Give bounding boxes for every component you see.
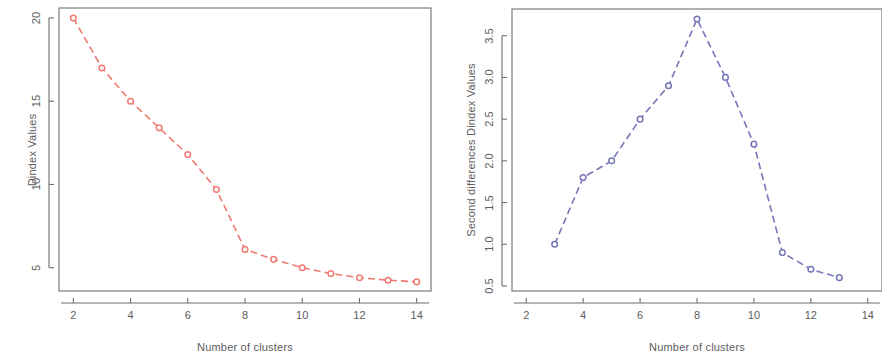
y-tick-label: 2.5 [481,110,497,128]
x-tick-label: 14 [411,309,423,321]
dindex-values-plot [0,0,441,360]
x-tick-label: 2 [70,309,76,321]
data-series-line [73,18,416,282]
data-point-marker [780,250,786,256]
data-point-marker [185,152,191,158]
data-point-marker [552,241,558,247]
data-point-marker [751,141,757,147]
data-point-marker [299,265,305,271]
data-point-marker [414,279,420,285]
x-tick-label: 10 [748,309,760,321]
x-tick-label: 4 [127,309,133,321]
data-point-marker [808,267,814,273]
data-point-marker [242,247,248,253]
y-tick-label: 0.5 [481,277,497,295]
x-tick-label: 6 [185,309,191,321]
y-tick-label: 1.5 [481,194,497,212]
y-tick-label: 1.0 [481,235,497,253]
chart-panel-dindex-values: Dindex Values Number of clusters 2468101… [0,0,441,360]
x-tick-label: 6 [637,309,643,321]
data-point-marker [723,75,729,81]
data-point-marker [666,83,672,89]
data-point-marker [156,125,162,131]
second-differences-plot [441,0,882,360]
x-tick-label: 14 [862,309,874,321]
data-point-marker [637,116,643,122]
x-tick-label: 2 [523,309,529,321]
data-point-marker [385,277,391,283]
data-point-marker [271,257,277,263]
data-point-marker [99,65,105,71]
x-tick-label: 8 [242,309,248,321]
y-tick-label: 2.0 [481,152,497,170]
y-tick-label: 3.0 [481,68,497,86]
x-tick-label: 12 [353,309,365,321]
data-point-marker [837,275,843,281]
x-tick-label: 10 [296,309,308,321]
data-point-marker [128,98,134,104]
plot-box [512,9,882,291]
data-point-marker [328,271,334,277]
figure-canvas: Dindex Values Number of clusters 2468101… [0,0,882,360]
data-point-marker [580,175,586,181]
data-point-marker [609,158,615,164]
y-tick-label: 10 [28,175,44,193]
data-point-marker [357,275,363,281]
y-axis-title-right: Second differences Dindex Values [465,63,477,237]
y-tick-label: 20 [28,9,44,27]
x-axis-title-left: Number of clusters [197,341,293,353]
x-tick-label: 4 [580,309,586,321]
x-tick-label: 12 [805,309,817,321]
x-tick-label: 8 [694,309,700,321]
data-point-marker [694,16,700,22]
data-point-marker [214,187,220,193]
chart-panel-second-differences: Second differences Dindex Values Number … [441,0,882,360]
data-series-line [555,19,840,278]
data-point-marker [71,15,77,21]
y-tick-label: 15 [28,92,44,110]
y-tick-label: 3.5 [481,27,497,45]
x-axis-title-right: Number of clusters [649,341,745,353]
y-tick-label: 5 [28,259,44,277]
